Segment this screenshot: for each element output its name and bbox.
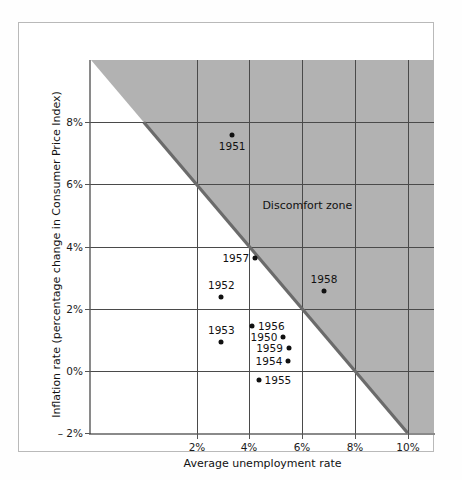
data-point — [281, 334, 286, 339]
x-tick-label: 10% — [396, 441, 419, 453]
gridline-horizontal — [91, 309, 434, 310]
x-tick — [249, 433, 250, 439]
y-axis-title: Inflation rate (percentage change in Con… — [50, 68, 63, 441]
gridline-horizontal — [91, 371, 434, 372]
y-tick — [85, 309, 91, 310]
data-point-label: 1951 — [219, 140, 246, 152]
data-point — [321, 288, 326, 293]
data-point-label: 1958 — [311, 273, 338, 285]
gridline-horizontal — [91, 247, 434, 248]
gridline-horizontal — [91, 184, 434, 185]
y-tick — [85, 184, 91, 185]
data-point-label: 1953 — [208, 324, 235, 336]
y-tick — [85, 122, 91, 123]
data-point-label: 1952 — [208, 279, 235, 291]
x-tick — [408, 433, 409, 439]
data-point — [219, 339, 224, 344]
x-axis-title: Average unemployment rate — [91, 457, 434, 470]
data-point-label: 1954 — [256, 355, 283, 367]
data-point-label: 1957 — [222, 252, 249, 264]
y-tick — [85, 371, 91, 372]
x-tick-label: 2% — [189, 441, 206, 453]
data-point-label: 1955 — [265, 374, 292, 386]
data-point — [230, 132, 235, 137]
x-tick-label: 4% — [241, 441, 258, 453]
figure-frame: 1951195719581952195319561950195919541955… — [18, 22, 434, 452]
plot-area: 1951195719581952195319561950195919541955… — [91, 60, 434, 433]
data-point — [286, 345, 291, 350]
x-tick — [302, 433, 303, 439]
x-tick-label: 6% — [294, 441, 311, 453]
x-tick — [197, 433, 198, 439]
figure-canvas: 1951195719581952195319561950195919541955… — [0, 0, 462, 480]
data-point — [286, 358, 291, 363]
y-tick — [85, 433, 91, 434]
x-axis-spine — [89, 433, 435, 435]
data-point — [253, 256, 258, 261]
y-tick — [85, 247, 91, 248]
data-point — [219, 295, 224, 300]
x-tick-label: 8% — [347, 441, 364, 453]
data-point-label: 1950 — [251, 331, 278, 343]
gridline-horizontal — [91, 122, 434, 123]
x-tick — [355, 433, 356, 439]
discomfort-zone-label: Discomfort zone — [262, 198, 352, 211]
data-point — [256, 377, 261, 382]
data-point-label: 1959 — [256, 342, 283, 354]
data-point — [249, 324, 254, 329]
